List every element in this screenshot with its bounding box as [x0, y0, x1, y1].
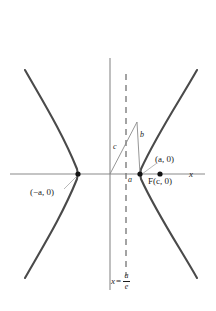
figure-canvas [0, 0, 216, 311]
directrix-lhs: x [111, 277, 115, 286]
directrix-equals: = [116, 277, 121, 286]
directrix-equation: x = a e [111, 272, 130, 291]
hyperbola-figure: x (−a, 0) (a, 0) F(c, 0) a b c x = a e [0, 0, 216, 311]
right-vertex-label: (a, 0) [155, 155, 174, 164]
directrix-denominator: e [124, 282, 130, 291]
point-right-vertex [137, 171, 142, 176]
leader-line-right-vertex [142, 163, 157, 174]
x-axis-label: x [189, 170, 193, 179]
directrix-numerator: a [124, 272, 130, 281]
left-vertex-label: (−a, 0) [30, 188, 54, 197]
focus-label: F(c, 0) [148, 177, 172, 186]
segment-c-label: c [113, 143, 117, 151]
segment-b-label: b [140, 131, 144, 139]
point-left-vertex [75, 171, 80, 176]
directrix-fraction: a e [123, 272, 130, 291]
segment-a-label: a [128, 176, 132, 184]
